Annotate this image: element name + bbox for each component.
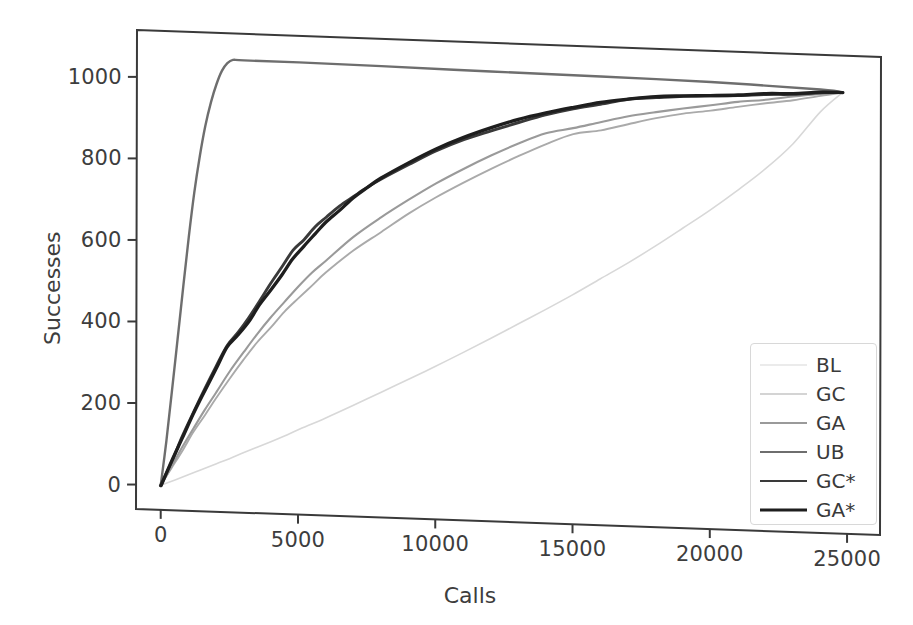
legend-label-ub: UB	[816, 442, 844, 462]
x-tick-label-1: 5000	[271, 528, 325, 552]
legend-label-ga-star: GA*	[816, 500, 855, 520]
y-tick-label-0: 0	[107, 473, 121, 497]
legend-item-ub[interactable]: UB	[751, 437, 876, 466]
y-tick-label-4: 800	[81, 146, 122, 170]
x-tick-label-2: 10000	[401, 532, 469, 556]
plot-canvas	[0, 0, 913, 625]
legend-label-gc: GC	[816, 384, 845, 404]
x-tick-label-3: 15000	[539, 537, 607, 561]
legend-swatch-gc-star	[760, 475, 807, 487]
y-tick-label-2: 400	[81, 309, 122, 333]
legend-item-gc[interactable]: GC	[751, 379, 876, 408]
x-tick-label-5: 25000	[813, 547, 881, 571]
chart-legend: BLGCGAUBGC*GA*	[750, 343, 877, 525]
legend-label-ga: GA	[816, 413, 845, 433]
data-series-group	[160, 60, 843, 486]
axis-ticks	[127, 77, 847, 543]
x-tick-label-4: 20000	[676, 542, 744, 566]
legend-swatch-ga	[760, 417, 807, 429]
legend-label-gc-star: GC*	[816, 471, 855, 491]
legend-swatch-ub	[760, 446, 807, 458]
legend-swatch-bl	[760, 359, 807, 371]
y-tick-label-1: 200	[81, 391, 122, 415]
y-tick-label-3: 600	[81, 228, 122, 252]
legend-item-ga[interactable]: GA	[751, 408, 876, 437]
legend-item-gc-star[interactable]: GC*	[751, 466, 876, 495]
y-tick-label-5: 1000	[68, 65, 122, 89]
legend-label-bl: BL	[816, 355, 841, 375]
x-tick-label-0: 0	[154, 523, 168, 547]
x-axis-label: Calls	[444, 583, 497, 608]
legend-item-bl[interactable]: BL	[751, 350, 876, 379]
y-axis-label: Successes	[40, 231, 65, 345]
series-line-ga	[161, 92, 843, 485]
chart-figure: 0500010000150002000025000020040060080010…	[0, 0, 913, 625]
legend-swatch-gc	[760, 388, 807, 400]
legend-swatch-ga-star	[760, 504, 807, 516]
legend-item-ga-star[interactable]: GA*	[751, 495, 876, 524]
